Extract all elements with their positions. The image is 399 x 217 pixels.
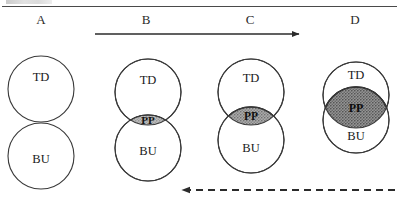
panel-b-bu-label: BU xyxy=(139,144,156,158)
panel-a-td-label: TD xyxy=(33,70,50,84)
panel-c-td-label: TD xyxy=(243,71,260,85)
panel-b-pp-label: PP xyxy=(141,114,155,126)
venn-progression-figure: A B C D xyxy=(0,0,399,217)
panel-b-td-label: TD xyxy=(140,73,157,87)
panel-b-diagram: TD PP BU xyxy=(115,59,181,181)
panel-d-pp-label: PP xyxy=(349,101,364,115)
panel-c-diagram: TD PP BU xyxy=(218,59,284,173)
panel-a-diagram: TD BU xyxy=(8,56,74,189)
panel-a-bu-label: BU xyxy=(32,152,49,166)
panel-d-diagram: TD PP BU xyxy=(323,62,389,153)
panel-a-td-circle xyxy=(8,56,74,122)
figure-canvas: TD BU TD PP BU TD PP BU xyxy=(0,0,399,217)
panel-d-bu-label: BU xyxy=(347,129,364,143)
panel-c-pp-label: PP xyxy=(244,110,258,122)
panel-c-bu-label: BU xyxy=(242,141,259,155)
panel-d-td-label: TD xyxy=(348,68,365,82)
